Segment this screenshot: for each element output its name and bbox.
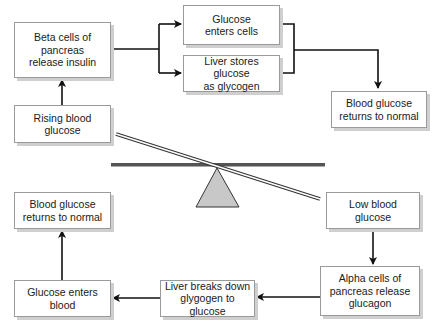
box-alpha-cells: Alpha cells of pancreas release glucagon: [320, 266, 420, 316]
box-returns-normal-bottom: Blood glucose returns to normal: [14, 192, 111, 229]
seesaw-fulcrum: [196, 168, 239, 207]
box-returns-normal-top: Blood glucose returns to normal: [331, 91, 427, 128]
box-liver-stores: Liver stores glucose as glycogen: [183, 55, 280, 92]
box-glucose-enters-cells: Glucose enters cells: [183, 5, 280, 45]
box-glucose-enters-blood: Glucose enters blood: [14, 280, 111, 317]
box-beta-cells: Beta cells of pancreas release insulin: [14, 22, 111, 78]
box-rising-glucose: Rising blood glucose: [14, 105, 111, 143]
box-liver-breaks: Liver breaks down glygogen to glucose: [160, 280, 255, 317]
box-low-glucose: Low blood glucose: [326, 192, 420, 229]
arrow-outcomes-to-normal: [280, 24, 294, 73]
